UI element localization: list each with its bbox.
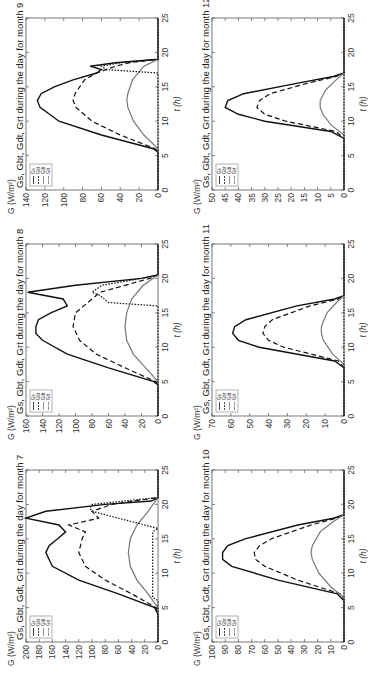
y-tick-label: 0 bbox=[339, 193, 349, 198]
x-axis-label: t (h) bbox=[172, 322, 182, 337]
x-tick-label: 25 bbox=[160, 239, 170, 249]
y-tick-label: 140 bbox=[61, 645, 71, 659]
chart-title: Gs, Gbt, Gdt, Grt during the day for mon… bbox=[200, 449, 211, 640]
chart-svg: 0510152025010203040506070t (h)G (W/m²)Gs… bbox=[186, 226, 372, 452]
x-tick-label: 25 bbox=[346, 13, 356, 23]
x-tick-label: 10 bbox=[346, 342, 356, 352]
y-tick-label: 50 bbox=[273, 645, 283, 655]
y-tick-label: 80 bbox=[87, 419, 97, 429]
y-tick-label: 20 bbox=[301, 419, 311, 429]
y-tick-label: 40 bbox=[115, 193, 125, 203]
chart-month-11: 0510152025010203040506070t (h)G (W/m²)Gs… bbox=[186, 226, 372, 452]
rotated-figure-page: 0510152025020406080100120140160180200t (… bbox=[0, 0, 372, 678]
chart-svg: 0510152025020406080100120140160t (h)G (W… bbox=[0, 226, 186, 452]
y-tick-label: 70 bbox=[207, 419, 217, 429]
x-tick-label: 0 bbox=[160, 413, 170, 418]
y-tick-label: 60 bbox=[113, 645, 123, 655]
y-tick-label: 15 bbox=[299, 193, 309, 203]
y-tick-label: 25 bbox=[273, 193, 283, 203]
x-tick-label: 5 bbox=[160, 605, 170, 610]
y-tick-label: 160 bbox=[47, 645, 57, 659]
x-tick-label: 10 bbox=[160, 568, 170, 578]
y-tick-label: 80 bbox=[78, 193, 88, 203]
y-tick-label: 20 bbox=[286, 193, 296, 203]
x-tick-label: 20 bbox=[346, 47, 356, 57]
x-tick-label: 5 bbox=[346, 153, 356, 158]
y-tick-label: 50 bbox=[207, 193, 217, 203]
chart-title: Gs, Gbt, Gdt, Grt during the day for mon… bbox=[200, 0, 211, 188]
x-tick-label: 10 bbox=[160, 342, 170, 352]
y-tick-label: 120 bbox=[74, 645, 84, 659]
y-tick-label: 200 bbox=[21, 645, 31, 659]
x-tick-label: 10 bbox=[346, 568, 356, 578]
y-tick-label: 0 bbox=[153, 419, 163, 424]
y-tick-label: 30 bbox=[260, 193, 270, 203]
y-tick-label: 160 bbox=[21, 419, 31, 433]
legend-entry: Grt bbox=[46, 619, 51, 626]
legend-entry: Grt bbox=[232, 393, 237, 400]
x-axis-label: t (h) bbox=[358, 96, 368, 111]
y-tick-label: 70 bbox=[247, 645, 257, 655]
x-tick-label: 5 bbox=[160, 153, 170, 158]
chart-title: Gs, Gbt, Gdt, Grt during the day for mon… bbox=[14, 3, 25, 188]
y-tick-label: 40 bbox=[233, 193, 243, 203]
y-tick-label: 100 bbox=[59, 193, 69, 207]
y-tick-label: 30 bbox=[299, 645, 309, 655]
y-tick-label: 35 bbox=[247, 193, 257, 203]
y-tick-label: 10 bbox=[326, 645, 336, 655]
x-tick-label: 25 bbox=[160, 465, 170, 475]
y-tick-label: 0 bbox=[153, 645, 163, 650]
y-tick-label: 40 bbox=[264, 419, 274, 429]
chart-month-9: 0510152025020406080100120140t (h)G (W/m²… bbox=[0, 0, 186, 226]
y-tick-label: 0 bbox=[153, 193, 163, 198]
y-tick-label: 20 bbox=[137, 419, 147, 429]
y-tick-label: 80 bbox=[100, 645, 110, 655]
y-tick-label: 90 bbox=[220, 645, 230, 655]
legend-entry: Grt bbox=[46, 167, 51, 174]
y-tick-label: 180 bbox=[34, 645, 44, 659]
legend-entry: Grt bbox=[232, 619, 237, 626]
y-tick-label: 100 bbox=[71, 419, 81, 433]
chart-svg: 051015202505101520253035404550t (h)G (W/… bbox=[186, 0, 372, 226]
y-tick-label: 140 bbox=[38, 419, 48, 433]
x-tick-label: 25 bbox=[160, 13, 170, 23]
x-tick-label: 0 bbox=[346, 413, 356, 418]
legend-entry: Grt bbox=[232, 167, 237, 174]
y-tick-label: 120 bbox=[54, 419, 64, 433]
y-tick-label: 60 bbox=[226, 419, 236, 429]
y-tick-label: 10 bbox=[320, 419, 330, 429]
y-tick-label: 120 bbox=[40, 193, 50, 207]
x-tick-label: 20 bbox=[160, 499, 170, 509]
y-tick-label: 60 bbox=[260, 645, 270, 655]
chart-month-7: 0510152025020406080100120140160180200t (… bbox=[0, 452, 186, 678]
x-tick-label: 15 bbox=[160, 82, 170, 92]
x-tick-label: 10 bbox=[346, 116, 356, 126]
x-axis-label: t (h) bbox=[172, 548, 182, 563]
x-tick-label: 15 bbox=[346, 308, 356, 318]
x-tick-label: 20 bbox=[346, 273, 356, 283]
x-axis-label: t (h) bbox=[172, 96, 182, 111]
y-tick-label: 0 bbox=[339, 645, 349, 650]
x-tick-label: 0 bbox=[160, 187, 170, 192]
y-tick-label: 20 bbox=[140, 645, 150, 655]
y-tick-label: 40 bbox=[127, 645, 137, 655]
y-tick-label: 100 bbox=[207, 645, 217, 659]
y-tick-label: 45 bbox=[220, 193, 230, 203]
x-axis-label: t (h) bbox=[358, 548, 368, 563]
y-tick-label: 40 bbox=[120, 419, 130, 429]
y-tick-label: 50 bbox=[245, 419, 255, 429]
x-tick-label: 20 bbox=[160, 47, 170, 57]
x-tick-label: 0 bbox=[346, 639, 356, 644]
chart-title: Gs, Gbt, Gdt, Grt during the day for mon… bbox=[14, 455, 25, 640]
x-tick-label: 25 bbox=[346, 239, 356, 249]
x-tick-label: 15 bbox=[160, 308, 170, 318]
x-tick-label: 5 bbox=[346, 605, 356, 610]
chart-title: Gs, Gbt, Gdt, Grt during the day for mon… bbox=[14, 229, 25, 414]
chart-svg: 0510152025020406080100120140160180200t (… bbox=[0, 452, 186, 678]
chart-month-10: 05101520250102030405060708090100t (h)G (… bbox=[186, 452, 372, 678]
x-tick-label: 5 bbox=[346, 379, 356, 384]
y-tick-label: 80 bbox=[233, 645, 243, 655]
x-tick-label: 0 bbox=[346, 187, 356, 192]
chart-svg: 0510152025020406080100120140t (h)G (W/m²… bbox=[0, 0, 186, 226]
y-tick-label: 30 bbox=[282, 419, 292, 429]
